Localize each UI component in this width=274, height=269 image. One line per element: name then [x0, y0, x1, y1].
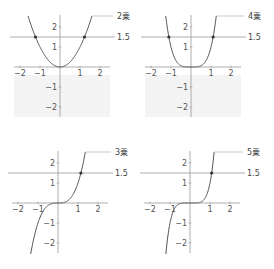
x-tick-label: −2 — [12, 205, 24, 214]
x-tick-label: 2 — [228, 69, 233, 78]
x-tick-label: 1 — [208, 69, 213, 78]
intersection-point — [167, 35, 170, 38]
x-tick-label: 2 — [97, 69, 102, 78]
y-tick-label: 2 — [52, 23, 57, 32]
curve-label: 5乗 — [247, 147, 260, 157]
x-tick-label: 1 — [77, 69, 82, 78]
x-tick-label: 2 — [227, 205, 232, 214]
intersection-point — [34, 35, 37, 38]
hline-label: 1.5 — [248, 33, 261, 42]
y-tick-label: 2 — [182, 159, 187, 168]
panel-fifth: −2−11221−1−21.55乗 — [140, 147, 260, 254]
hline-label: 1.5 — [247, 169, 260, 178]
curve-label: 3乗 — [115, 147, 128, 157]
panel-cube: −2−11221−1−21.53乗 — [8, 147, 128, 254]
x-tick-label: −2 — [144, 205, 156, 214]
y-tick-label: −1 — [45, 83, 57, 92]
shaded-region — [145, 75, 241, 117]
intersection-point — [79, 171, 82, 174]
panel-square: −2−11221−1−21.52乗 — [10, 11, 130, 117]
y-tick-label: −2 — [176, 103, 188, 112]
y-tick-label: −2 — [45, 103, 57, 112]
intersection-point — [83, 35, 86, 38]
intersection-point — [212, 35, 215, 38]
y-tick-label: −1 — [176, 83, 188, 92]
intersection-point — [210, 171, 213, 174]
y-tick-label: −1 — [43, 219, 55, 228]
y-tick-label: 1 — [182, 179, 187, 188]
y-tick-label: 1 — [50, 179, 55, 188]
panel-fourth: −2−11221−1−21.54乗 — [141, 11, 261, 117]
shaded-region — [14, 75, 110, 117]
x-tick-label: −1 — [165, 69, 177, 78]
y-tick-label: 1 — [52, 43, 57, 52]
x-tick-label: −1 — [34, 69, 46, 78]
y-tick-label: −2 — [43, 239, 55, 248]
curve-label: 2乗 — [117, 11, 130, 21]
hline-label: 1.5 — [117, 33, 130, 42]
x-tick-label: −2 — [145, 69, 157, 78]
power-function-charts: −2−11221−1−21.52乗−2−11221−1−21.54乗−2−112… — [0, 0, 274, 269]
x-tick-label: −2 — [14, 69, 26, 78]
hline-label: 1.5 — [115, 169, 128, 178]
y-tick-label: −1 — [175, 219, 187, 228]
curve-label: 4乗 — [248, 11, 261, 21]
x-tick-label: 2 — [95, 205, 100, 214]
y-tick-label: −2 — [175, 239, 187, 248]
y-tick-label: 2 — [50, 159, 55, 168]
y-tick-label: 2 — [183, 23, 188, 32]
y-tick-label: 1 — [183, 43, 188, 52]
x-tick-label: 1 — [207, 205, 212, 214]
x-tick-label: 1 — [75, 205, 80, 214]
